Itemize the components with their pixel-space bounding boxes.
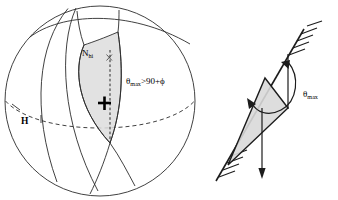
figure-root: Nhi θmax>90+ϕ H <box>0 0 338 200</box>
lune-right-upper-extension <box>118 10 119 32</box>
sphere-panel: Nhi θmax>90+ϕ H <box>5 6 195 196</box>
wedge-panel: θmax <box>216 21 322 181</box>
label-h: H <box>21 116 29 126</box>
meridian-circle-left <box>41 9 68 183</box>
shaded-wedge-triangle <box>228 78 288 165</box>
label-theta-max-condition: θmax>90+ϕ <box>126 76 165 87</box>
label-theta-max: θmax <box>303 89 319 100</box>
hatch-marks-upper <box>289 21 322 55</box>
figure-canvas: Nhi θmax>90+ϕ H <box>0 0 338 200</box>
lune-left-upper-extension <box>77 11 84 45</box>
downward-force-arrowhead <box>258 168 265 179</box>
